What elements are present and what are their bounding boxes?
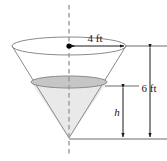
center-point-dot: [66, 43, 71, 48]
cone-diagram-canvas: 4 ft 6 ft h: [0, 0, 167, 161]
cone-diagram-figure: 4 ft 6 ft h: [0, 0, 167, 161]
radius-label: 4 ft: [88, 32, 103, 44]
radius-dimension: [66, 43, 124, 48]
water-depth-label: h: [114, 106, 120, 118]
total-height-label: 6 ft: [142, 82, 157, 94]
